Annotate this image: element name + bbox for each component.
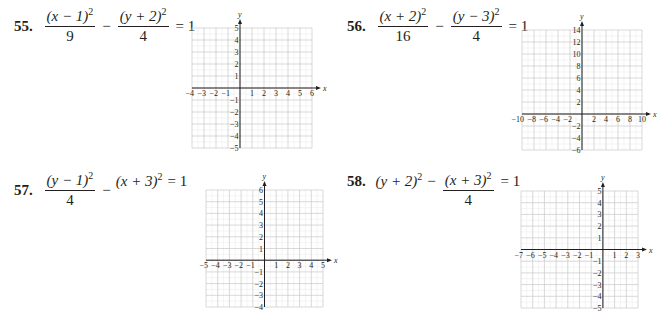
y-axis-arrow-icon xyxy=(580,21,584,26)
y-tick-label: 10 xyxy=(573,50,581,59)
x-tick-label: 3 xyxy=(274,89,278,98)
y-tick-label: −5 xyxy=(230,144,239,153)
x-tick-label: −2 xyxy=(573,251,582,260)
numerator-base: (x + 2) xyxy=(380,8,422,24)
x-tick-label: −8 xyxy=(527,115,536,124)
squared-term: (y + 2)2 xyxy=(376,173,423,190)
denominator: 4 xyxy=(464,191,472,209)
y-tick-label: −2 xyxy=(572,122,581,131)
y-tick-label: 8 xyxy=(577,62,581,71)
y-tick-label: 4 xyxy=(235,36,239,45)
x-tick-label: 10 xyxy=(638,115,646,124)
x-tick-label: −2 xyxy=(235,261,244,270)
x-axis-arrow-icon xyxy=(646,112,651,116)
minus-operator: − xyxy=(102,182,110,199)
y-tick-label: −4 xyxy=(572,134,581,143)
x-tick-label: −6 xyxy=(526,251,535,260)
exponent: 2 xyxy=(421,6,426,17)
problem-number: 58. xyxy=(347,173,366,190)
equals-one: = 1 xyxy=(501,173,521,190)
x-tick-label: 6 xyxy=(616,115,620,124)
x-tick-label: −4 xyxy=(185,89,194,98)
y-tick-label: −5 xyxy=(593,304,602,313)
grid-svg: xy−4−3−2−112345654321−1−2−3−4−5 xyxy=(192,28,312,148)
term-base: (x + 3) xyxy=(116,173,158,189)
x-tick-label: −1 xyxy=(221,89,230,98)
x-tick-label: 3 xyxy=(636,251,640,260)
fraction-term-2: (y + 2)2 4 xyxy=(118,8,169,45)
numerator-base: (x − 1) xyxy=(47,8,89,24)
grid-svg: xy−7−6−5−4−3−2−112354321−1−2−3−4−5 xyxy=(521,191,638,308)
x-tick-label: −2 xyxy=(209,89,218,98)
y-axis-label: y xyxy=(579,12,584,21)
y-tick-label: 4 xyxy=(577,86,581,95)
fraction-term-1: (y − 1)2 4 xyxy=(45,172,96,209)
y-axis-label: y xyxy=(600,173,605,182)
equation: (y + 2)2 − (x + 3)2 4 = 1 xyxy=(376,172,526,209)
x-tick-label: −5 xyxy=(538,251,547,260)
x-axis-arrow-icon xyxy=(316,86,321,90)
denominator: 4 xyxy=(66,191,74,209)
y-tick-label: 5 xyxy=(235,24,239,33)
x-tick-label: −4 xyxy=(550,251,559,260)
equation: (y − 1)2 4 − (x + 3)2 = 1 xyxy=(43,172,193,209)
y-tick-label: −1 xyxy=(230,96,239,105)
y-tick-label: 3 xyxy=(597,210,601,219)
x-tick-label: 1 xyxy=(274,261,278,270)
numerator-base: (x + 3) xyxy=(445,172,487,188)
x-tick-label: 1 xyxy=(250,89,254,98)
x-tick-label: −6 xyxy=(539,115,548,124)
y-tick-label: −1 xyxy=(593,257,602,266)
x-tick-label: 8 xyxy=(628,115,632,124)
minus-operator: − xyxy=(102,18,110,35)
problem-number: 55. xyxy=(14,18,33,35)
x-tick-label: −4 xyxy=(211,261,220,270)
x-tick-label: 4 xyxy=(604,115,608,124)
problem-58: 58. (y + 2)2 − (x + 3)2 4 = 1 xyxy=(347,172,525,209)
y-tick-label: 5 xyxy=(259,198,263,207)
y-tick-label: 1 xyxy=(235,72,239,81)
problem-56: 56. (x + 2)2 16 − (y − 3)2 4 = 1 xyxy=(347,8,533,45)
denominator: 16 xyxy=(395,27,410,45)
x-tick-label: −3 xyxy=(197,89,206,98)
x-tick-label: −10 xyxy=(511,115,524,124)
y-tick-label: −2 xyxy=(254,280,263,289)
problem-number: 56. xyxy=(347,18,366,35)
x-tick-label: 3 xyxy=(298,261,302,270)
y-axis-label: y xyxy=(237,10,242,19)
x-tick-label: 4 xyxy=(286,89,290,98)
x-tick-label: 5 xyxy=(298,89,302,98)
numerator-base: (y − 1) xyxy=(47,172,89,188)
x-tick-label: 2 xyxy=(592,115,596,124)
x-tick-label: −3 xyxy=(223,261,232,270)
fraction-term-1: (x − 1)2 9 xyxy=(45,8,96,45)
y-tick-label: 1 xyxy=(259,245,263,254)
fraction-term-2: (y − 3)2 4 xyxy=(451,8,502,45)
x-tick-label: −2 xyxy=(563,115,572,124)
y-tick-label: 1 xyxy=(597,234,601,243)
exponent: 2 xyxy=(495,6,500,17)
x-axis-label: x xyxy=(333,256,338,265)
exponent: 2 xyxy=(158,171,163,182)
x-tick-label: 2 xyxy=(624,251,628,260)
y-tick-label: 14 xyxy=(573,26,581,35)
x-axis-label: x xyxy=(652,110,657,119)
problem-number: 57. xyxy=(14,182,33,199)
y-tick-label: 2 xyxy=(597,222,601,231)
coordinate-grid-57: xy−5−4−3−2−112345654321−1−2−3−4 xyxy=(206,190,323,307)
x-axis-arrow-icon xyxy=(642,248,647,252)
exponent: 2 xyxy=(487,170,492,181)
denominator: 4 xyxy=(139,27,147,45)
y-axis-arrow-icon xyxy=(601,182,605,187)
denominator: 4 xyxy=(472,27,480,45)
numerator-base: (y + 2) xyxy=(120,8,162,24)
x-tick-label: 2 xyxy=(262,89,266,98)
x-axis-arrow-icon xyxy=(327,258,332,262)
exponent: 2 xyxy=(417,171,422,182)
x-axis-label: x xyxy=(648,246,653,255)
y-tick-label: −2 xyxy=(230,108,239,117)
y-axis-arrow-icon xyxy=(263,181,267,186)
numerator-base: (y − 3) xyxy=(453,8,495,24)
minus-operator: − xyxy=(435,18,443,35)
x-tick-label: −7 xyxy=(514,251,523,260)
